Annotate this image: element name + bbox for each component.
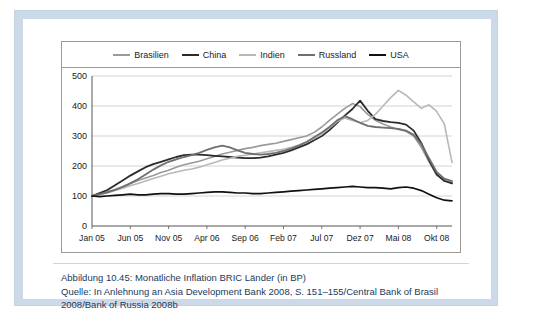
page-root: Brasilien China Indien Russland (0, 0, 534, 324)
svg-text:Apr 06: Apr 06 (194, 233, 220, 243)
plot-area: 0100200300400500Jan 05Jun 05Nov 05Apr 06… (62, 68, 460, 254)
legend-label-china: China (203, 50, 227, 60)
figure-caption-line1: Abbildung 10.45: Monatliche Inflation BR… (61, 271, 481, 285)
svg-text:Jul 07: Jul 07 (310, 233, 333, 243)
legend-item-brasilien: Brasilien (113, 50, 169, 60)
legend-item-china: China (182, 50, 227, 60)
line-chart-svg: 0100200300400500Jan 05Jun 05Nov 05Apr 06… (62, 68, 460, 254)
chart-panel: Brasilien China Indien Russland (61, 41, 461, 253)
svg-text:400: 400 (72, 101, 87, 111)
legend-swatch-china (182, 54, 199, 56)
svg-text:Okt 08: Okt 08 (424, 233, 450, 243)
legend-swatch-brasilien (113, 54, 130, 56)
svg-text:Feb 07: Feb 07 (270, 233, 297, 243)
caption-divider (53, 263, 469, 264)
svg-text:500: 500 (72, 71, 87, 81)
legend-label-usa: USA (390, 50, 409, 60)
legend-label-russland: Russland (319, 50, 357, 60)
svg-text:300: 300 (72, 131, 87, 141)
figure-caption-line2: Quelle: In Anlehnung an Asia Development… (61, 285, 481, 299)
figure-caption-line3: 2008/Bank of Russia 2008b (61, 298, 481, 312)
legend-item-usa: USA (369, 50, 409, 60)
legend-swatch-indien (239, 54, 256, 56)
legend-item-indien: Indien (239, 50, 285, 60)
svg-text:Jan 05: Jan 05 (79, 233, 105, 243)
chart-legend: Brasilien China Indien Russland (62, 42, 460, 68)
svg-text:Nov 05: Nov 05 (155, 233, 182, 243)
legend-item-russland: Russland (298, 50, 357, 60)
legend-swatch-usa (369, 54, 386, 56)
legend-label-indien: Indien (260, 50, 285, 60)
figure-frame: Brasilien China Indien Russland (14, 10, 498, 306)
svg-text:Mai 08: Mai 08 (385, 233, 411, 243)
svg-text:0: 0 (82, 221, 87, 231)
svg-text:100: 100 (72, 191, 87, 201)
svg-text:Sep 06: Sep 06 (232, 233, 259, 243)
svg-text:Jun 05: Jun 05 (117, 233, 143, 243)
figure-inner: Brasilien China Indien Russland (23, 19, 491, 299)
svg-text:Dez 07: Dez 07 (346, 233, 373, 243)
legend-swatch-russland (298, 54, 315, 56)
legend-label-brasilien: Brasilien (134, 50, 169, 60)
svg-text:200: 200 (72, 161, 87, 171)
